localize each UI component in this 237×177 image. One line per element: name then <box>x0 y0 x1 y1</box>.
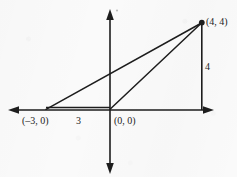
label-side-length-4: 4 <box>205 62 210 72</box>
plot-canvas <box>0 0 237 177</box>
scan-speck-artifact <box>116 9 118 11</box>
label-vertex-neg3-0: (–3, 0) <box>22 116 49 126</box>
triangle-group <box>46 20 205 110</box>
coordinate-geometry-figure: (4, 4) (–3, 0) (0, 0) 4 3 <box>0 0 237 177</box>
label-vertex-4-4: (4, 4) <box>206 17 228 27</box>
label-side-length-3: 3 <box>76 116 81 126</box>
x-axis-right-arrowhead <box>203 106 214 114</box>
vertex-marker-apex <box>199 20 205 26</box>
x-axis-left-arrowhead <box>8 106 19 114</box>
label-vertex-origin: (0, 0) <box>114 116 136 126</box>
y-axis-bottom-arrowhead <box>106 163 114 174</box>
y-axis-top-arrowhead <box>106 9 114 20</box>
